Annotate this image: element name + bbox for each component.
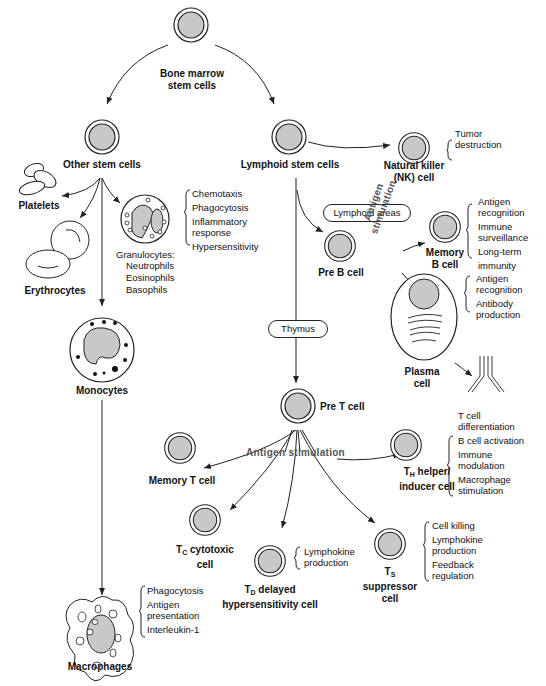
ts-cell-label: TS suppressor cell (358, 566, 422, 605)
bone-marrow-label: Bone marrow stem cells (150, 68, 234, 92)
memory-t-cell-icon (165, 433, 196, 464)
nk-cell-functions: Tumor destruction (455, 128, 501, 153)
tc-cell-label: TC cytotoxic cell (172, 544, 238, 571)
memory-b-cell-icon (430, 212, 461, 243)
granulocytes-label: Granulocytes: Neutrophils Eosinophils Ba… (116, 249, 175, 295)
granulocyte-icon (121, 195, 169, 243)
th-cell-icon (391, 430, 422, 461)
th-cell-label: TH helper/ inducer cell (393, 466, 461, 493)
erythrocytes-icon (26, 221, 89, 278)
plasma-cell-functions: Antigen recognition Antibody production (476, 273, 522, 323)
monocyte-icon (70, 318, 134, 382)
tc-cell-icon (190, 505, 221, 536)
thymus-box: Thymus (268, 320, 328, 338)
antigen-stimulation-t-label: Antigen stimulation (246, 447, 345, 458)
platelets-label: Platelets (14, 200, 64, 212)
other-stem-cells-label: Other stem cells (55, 159, 149, 171)
td-cell-icon (255, 546, 286, 577)
lymphoid-stem-cells-label: Lymphoid stem cells (235, 159, 345, 171)
erythrocytes-label: Erythrocytes (22, 285, 88, 297)
td-cell-functions: Lymphokine production (304, 546, 355, 571)
plasma-cell-icon (391, 274, 457, 360)
pre-b-cell-label: Pre B cell (314, 267, 368, 279)
pre-b-cell-icon (325, 231, 356, 262)
pre-t-cell-icon (281, 389, 315, 423)
memory-b-cell-label: Memory B cell (420, 247, 470, 271)
plasma-cell-label: Plasma cell (400, 366, 444, 390)
memory-t-cell-label: Memory T cell (146, 475, 218, 487)
antibody-icon (468, 356, 504, 392)
th-cell-functions: T cell differentiation B cell activation… (458, 410, 524, 499)
other-stem-cell-icon (85, 120, 119, 154)
bone-marrow-stem-cell-icon (174, 8, 208, 42)
monocytes-label: Monocytes (70, 385, 134, 397)
lymphoid-stem-cell-icon (272, 120, 306, 154)
platelets-icon (18, 161, 59, 197)
ts-cell-functions: Cell killing Lymphokine production Feedb… (432, 520, 483, 584)
memory-b-cell-functions: Antigen recognition Immune surveillance … (478, 196, 528, 274)
td-cell-label: TD delayed hypersensitivity cell (215, 584, 325, 611)
macrophage-functions: Phagocytosis Antigen presentation Interl… (147, 585, 204, 638)
nk-cell-icon (399, 133, 430, 164)
pre-t-cell-label: Pre T cell (320, 401, 376, 413)
granulocyte-functions: Chemotaxis Phagocytosis Inflammatory res… (192, 188, 259, 255)
ts-cell-icon (375, 529, 406, 560)
macrophages-label: Macrophages (64, 661, 136, 673)
